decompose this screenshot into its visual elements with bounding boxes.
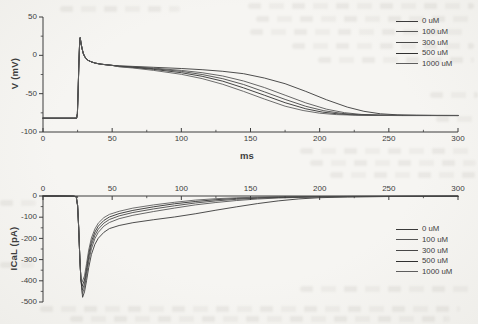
legend-label: 1000 uM xyxy=(422,268,452,276)
bleedthrough-smudge xyxy=(0,200,36,206)
bleedthrough-smudge xyxy=(330,172,476,178)
legend-label: 0 uM xyxy=(422,225,439,233)
y-tick-label: -200 xyxy=(21,234,38,243)
x-tick-label: 300 xyxy=(451,134,465,143)
bleedthrough-smudge xyxy=(250,29,464,35)
bleedthrough-smudge xyxy=(310,160,476,166)
bleedthrough-smudge xyxy=(248,3,474,9)
bleedthrough-smudge xyxy=(300,286,476,292)
x-tick-label: 200 xyxy=(313,184,327,193)
y-tick-label: 0 xyxy=(33,50,38,59)
legend-row: 500 uM xyxy=(396,256,452,267)
y-tick-label: -100 xyxy=(21,127,38,136)
x-tick-label: 100 xyxy=(175,134,189,143)
legend-label: 300 uM xyxy=(422,247,448,255)
bleedthrough-smudge xyxy=(70,316,450,322)
x-tick-label: 50 xyxy=(108,184,117,193)
x-tick-label: 250 xyxy=(382,134,396,143)
ical-legend: 0 uM100 uM300 uM500 uM1000 uM xyxy=(396,224,452,277)
voltage-x-axis-title: ms xyxy=(227,150,267,161)
legend-row: 1000 uM xyxy=(396,266,452,277)
x-tick-label: 0 xyxy=(41,134,46,143)
x-tick-label: 250 xyxy=(382,184,396,193)
bleedthrough-smudge xyxy=(430,92,478,98)
bleedthrough-smudge xyxy=(40,306,460,312)
legend-label: 500 uM xyxy=(422,257,448,265)
legend-label: 500 uM xyxy=(422,49,448,57)
legend-swatch-line xyxy=(396,53,418,54)
y-tick-label: 0 xyxy=(33,191,38,200)
y-tick-label: -50 xyxy=(25,89,37,98)
legend-swatch-line xyxy=(396,250,418,251)
legend-label: 100 uM xyxy=(422,236,448,244)
legend-swatch-line xyxy=(396,271,418,272)
x-tick-label: 300 xyxy=(451,184,465,193)
y-tick-label: -400 xyxy=(21,276,38,285)
x-tick-label: 0 xyxy=(41,184,46,193)
legend-row: 100 uM xyxy=(396,235,452,246)
legend-swatch-line xyxy=(396,63,418,64)
bleedthrough-smudge xyxy=(0,262,34,268)
x-tick-label: 100 xyxy=(175,184,189,193)
legend-row: 300 uM xyxy=(396,245,452,256)
y-tick-label: 50 xyxy=(28,12,37,21)
x-tick-label: 150 xyxy=(244,184,258,193)
scanned-figure-page: 050100150200250300500-50-100050100150200… xyxy=(0,0,478,324)
legend-swatch-line xyxy=(396,239,418,240)
bleedthrough-smudge xyxy=(292,43,474,49)
x-tick-label: 200 xyxy=(313,134,327,143)
legend-row: 0 uM xyxy=(396,224,452,235)
bleedthrough-smudge xyxy=(436,116,478,122)
legend-swatch-line xyxy=(396,261,418,262)
bleedthrough-smudge xyxy=(300,148,474,154)
voltage-y-axis-title: V (mV) xyxy=(9,44,20,104)
bleedthrough-smudge xyxy=(60,6,180,12)
x-tick-label: 50 xyxy=(108,134,117,143)
ical-y-axis-title: ICaL (pA) xyxy=(8,214,19,284)
y-tick-label: -100 xyxy=(21,212,38,221)
legend-swatch-line xyxy=(396,229,418,230)
y-tick-label: -500 xyxy=(21,297,38,306)
x-tick-label: 150 xyxy=(244,134,258,143)
bleedthrough-smudge xyxy=(318,57,474,63)
bleedthrough-smudge xyxy=(256,16,476,22)
